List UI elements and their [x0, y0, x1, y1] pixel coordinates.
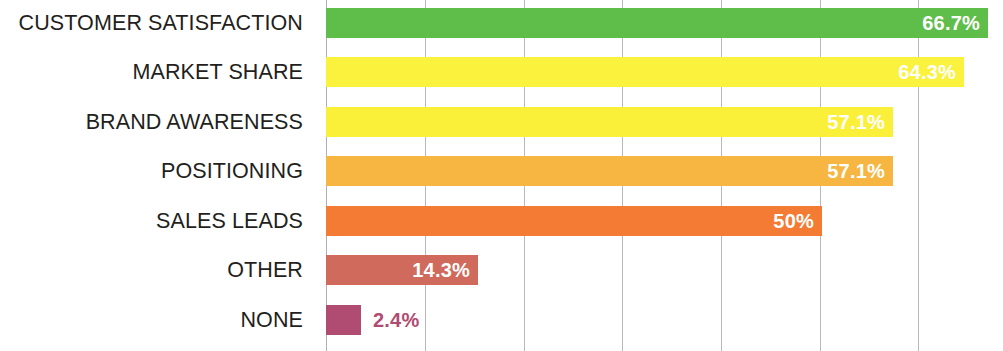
bar-value-label: 2.4%: [373, 305, 419, 335]
bar[interactable]: 66.7%: [326, 8, 988, 38]
category-label: OTHER: [0, 260, 303, 282]
bar[interactable]: 64.3%: [326, 57, 964, 87]
bar-row: 50%: [326, 206, 822, 236]
bar-row: 66.7%: [326, 8, 988, 38]
gridline: [918, 0, 919, 351]
bar-value-label: 14.3%: [412, 255, 470, 285]
bar-row: 64.3%: [326, 57, 964, 87]
bar-row: 57.1%: [326, 107, 893, 137]
bar-value-label: 57.1%: [827, 107, 885, 137]
category-label: CUSTOMER SATISFACTION: [0, 13, 303, 35]
bar-row: 14.3%: [326, 255, 478, 285]
bar[interactable]: 2.4%: [326, 305, 361, 335]
category-label: POSITIONING: [0, 161, 303, 183]
category-label: NONE: [0, 310, 303, 332]
bar[interactable]: 57.1%: [326, 156, 893, 186]
bar-row: 57.1%: [326, 156, 893, 186]
category-label: BRAND AWARENESS: [0, 112, 303, 134]
category-label-column: CUSTOMER SATISFACTION MARKET SHARE BRAND…: [0, 0, 303, 351]
category-label: SALES LEADS: [0, 211, 303, 233]
bar-value-label: 57.1%: [827, 156, 885, 186]
bar-chart: CUSTOMER SATISFACTION MARKET SHARE BRAND…: [0, 0, 1003, 351]
bar-value-label: 50%: [773, 206, 814, 236]
category-label: MARKET SHARE: [0, 62, 303, 84]
plot-area: 66.7% 64.3% 57.1% 57.1% 50% 14.3%: [326, 0, 1003, 351]
bar-value-label: 66.7%: [922, 8, 980, 38]
bar[interactable]: 57.1%: [326, 107, 893, 137]
bar-value-label: 64.3%: [898, 57, 956, 87]
bar[interactable]: 14.3%: [326, 255, 478, 285]
bar-row: 2.4%: [326, 305, 361, 335]
bar[interactable]: 50%: [326, 206, 822, 236]
